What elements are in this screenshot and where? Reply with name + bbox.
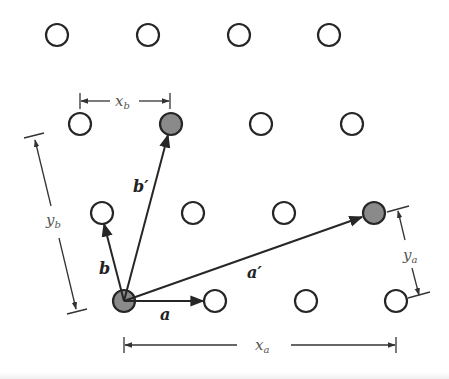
label-y-a: ya — [402, 246, 417, 265]
open-lattice-point — [46, 24, 68, 46]
label-x-a: xa — [255, 336, 269, 355]
vector-a-prime — [124, 217, 362, 301]
label-y-b: yb — [45, 211, 61, 230]
filled-lattice-point-a-prime-tip — [363, 202, 385, 224]
filled-lattice-points — [113, 113, 385, 312]
open-lattice-point — [228, 24, 250, 46]
open-lattice-point — [385, 290, 407, 312]
open-lattice-point — [182, 202, 204, 224]
open-lattice-point — [273, 202, 295, 224]
open-lattice-point — [318, 24, 340, 46]
filled-lattice-point-b-prime-tip — [160, 113, 182, 135]
label-vector-b: b — [99, 259, 110, 278]
open-lattice-point — [204, 290, 226, 312]
open-lattice-point — [295, 290, 317, 312]
label-vector-b-prime: b′ — [133, 177, 149, 196]
vector-b-prime — [124, 135, 168, 301]
open-lattice-point — [69, 113, 91, 135]
label-vector-a-prime: a′ — [247, 263, 262, 282]
cropped-caption-strip — [0, 372, 449, 379]
lattice-diagram: b′ b a a′ xb yb ya xa — [0, 0, 449, 379]
label-vector-a: a — [160, 305, 170, 324]
open-lattice-point — [341, 113, 363, 135]
open-lattice-point — [137, 24, 159, 46]
open-lattice-point — [91, 202, 113, 224]
label-x-b: xb — [115, 92, 130, 111]
open-lattice-point — [250, 113, 272, 135]
